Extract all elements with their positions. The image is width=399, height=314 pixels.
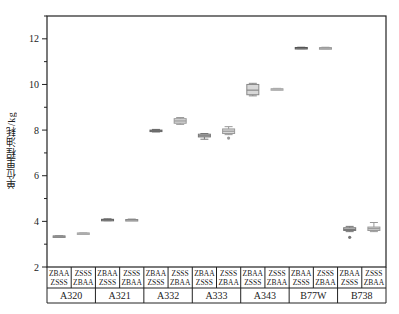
outlier-point [227,136,230,139]
route-dest-label: ZSSS [51,278,68,287]
route-origin-label: ZSSS [75,269,92,278]
route-dest-label: ZSSS [244,278,261,287]
route-dest-label: ZSSS [147,278,164,287]
route-origin-label: ZSSS [220,269,237,278]
y-tick-label: 10 [29,79,39,90]
route-dest-label: ZBAA [364,278,385,287]
aircraft-label: B77W [300,290,327,301]
route-origin-label: ZBAA [339,269,360,278]
plot-frame [47,16,386,267]
route-origin-label: ZBAA [243,269,264,278]
route-dest-label: ZBAA [73,278,94,287]
y-tick-label: 4 [34,216,39,227]
aircraft-label: A332 [157,290,179,301]
route-origin-label: ZBAA [291,269,312,278]
aircraft-label: B738 [351,290,373,301]
route-origin-label: ZSSS [317,269,334,278]
y-tick-label: 12 [29,33,39,44]
route-dest-label: ZSSS [99,278,116,287]
route-dest-label: ZBAA [218,278,239,287]
outlier-point [348,236,351,239]
route-dest-label: ZBAA [315,278,336,287]
y-tick-label: 8 [34,125,39,136]
aircraft-label: A333 [205,290,227,301]
route-dest-label: ZBAA [122,278,143,287]
route-dest-label: ZSSS [293,278,310,287]
route-origin-label: ZSSS [172,269,189,278]
route-dest-label: ZSSS [341,278,358,287]
route-origin-label: ZBAA [49,269,70,278]
route-dest-label: ZBAA [267,278,288,287]
aircraft-label: A343 [254,290,276,301]
route-origin-label: ZBAA [146,269,167,278]
y-tick-label: 6 [34,170,39,181]
route-dest-label: ZSSS [196,278,213,287]
route-origin-label: ZBAA [194,269,215,278]
box-plot-chart: 24681012ZBAAZSSSZSSSZBAAZBAAZSSSZSSSZBAA… [0,0,399,314]
route-origin-label: ZBAA [97,269,118,278]
route-dest-label: ZBAA [170,278,191,287]
y-tick-label: 2 [34,262,39,273]
aircraft-label: A320 [60,290,82,301]
route-origin-label: ZSSS [365,269,382,278]
route-origin-label: ZSSS [268,269,285,278]
aircraft-label: A321 [109,290,131,301]
route-origin-label: ZSSS [123,269,140,278]
